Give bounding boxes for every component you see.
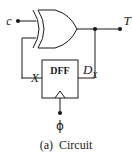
dff-block: DFF (42, 60, 78, 98)
label-signal-x: X (30, 70, 40, 85)
terminal-dot-c[interactable] (16, 19, 20, 23)
circuit-diagram: DFF c T X D X ϕ (0, 0, 132, 134)
terminal-dot-t[interactable] (118, 27, 122, 31)
dff-label: DFF (50, 65, 69, 76)
xor-gate-body (38, 10, 77, 48)
label-output-t: T (123, 13, 131, 28)
label-input-c: c (6, 14, 12, 28)
junction-dot-t (93, 27, 97, 31)
label-signal-d-subscript: X (91, 70, 98, 80)
figure-caption: (a) Circuit (0, 134, 132, 157)
xor-gate-extra-arc (33, 10, 39, 48)
terminal-dot-phi[interactable] (58, 111, 62, 115)
xor-gate (33, 10, 77, 48)
circuit-figure: DFF c T X D X ϕ (a) Circuit (0, 0, 132, 157)
label-clock-phi: ϕ (56, 119, 64, 133)
label-signal-dx: D X (82, 62, 98, 80)
